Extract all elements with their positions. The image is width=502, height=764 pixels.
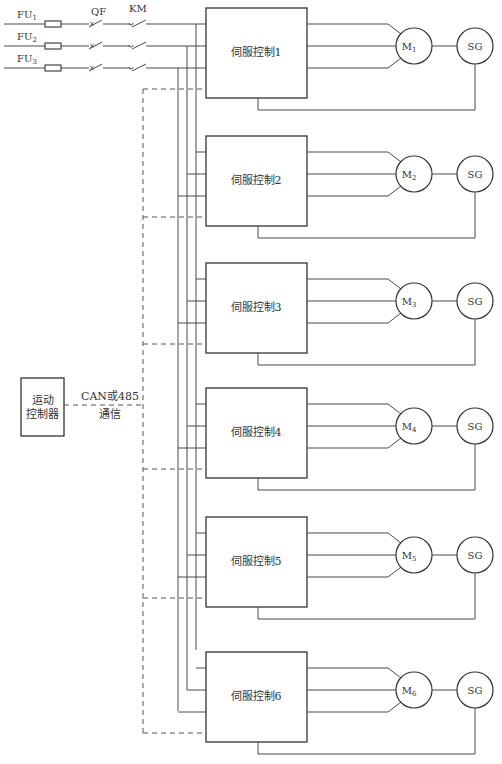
motor-phase-w (307, 58, 401, 68)
motor-phase-u (307, 533, 401, 543)
encoder-label: SG (468, 685, 483, 696)
breaker-label: QF (91, 6, 106, 17)
motor-phase-w (307, 186, 401, 196)
servo-drive-label: 伺服控制6 (231, 689, 282, 703)
servo-drive-label: 伺服控制4 (231, 425, 282, 439)
fuse-label: FU3 (17, 53, 37, 66)
fuse-icon (45, 21, 61, 27)
servo-drive-label: 伺服控制5 (231, 554, 282, 568)
encoder-label: SG (468, 421, 483, 432)
power-supply: FU1×FU2×FU3×QFKM (4, 3, 206, 72)
fuse-icon (45, 43, 61, 49)
fuse-label: FU2 (17, 31, 37, 44)
motor-phase-w (307, 313, 401, 323)
encoder-label: SG (468, 550, 483, 561)
breaker-mark: × (89, 20, 95, 28)
motor-phase-u (307, 279, 401, 289)
servo-wiring-diagram: FU1×FU2×FU3×QFKM 伺服控制1M1SG伺服控制2M2SG伺服控制3… (0, 0, 502, 764)
motion-controller: 运动 控制器 (21, 378, 64, 436)
servo-drive-label: 伺服控制2 (231, 173, 282, 187)
motion-controller-label-2: 控制器 (26, 407, 59, 421)
servo-drive-label: 伺服控制3 (231, 300, 282, 314)
servo-unit-6: 伺服控制6M6SG (143, 652, 493, 754)
motion-controller-label-1: 运动 (32, 394, 54, 407)
motor-phase-w (307, 438, 401, 448)
comm-bus-label: CAN或485 (81, 390, 139, 403)
motor-phase-w (307, 567, 401, 577)
fuse-label: FU1 (17, 9, 37, 22)
motor-phase-w (307, 702, 401, 712)
motor-phase-u (307, 404, 401, 414)
motor-phase-u (307, 152, 401, 162)
motion-controller-box (21, 378, 64, 436)
breaker-mark: × (89, 64, 95, 72)
motor-phase-u (307, 668, 401, 678)
motor-phase-u (307, 24, 401, 34)
breaker-mark: × (89, 42, 95, 50)
comm-bus-sublabel: 通信 (99, 408, 121, 421)
encoder-label: SG (468, 41, 483, 52)
fuse-icon (45, 65, 61, 71)
servo-drive-label: 伺服控制1 (231, 45, 282, 59)
encoder-label: SG (468, 296, 483, 307)
power-bus (178, 24, 196, 711)
contactor-label: KM (129, 3, 147, 14)
encoder-label: SG (468, 169, 483, 180)
